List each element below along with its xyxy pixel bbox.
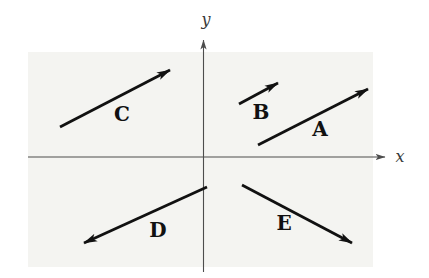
vector-E-label: E (276, 211, 291, 235)
vector-D-label: D (149, 218, 166, 242)
plot-region (28, 52, 373, 267)
vector-C-label: C (114, 102, 130, 126)
vector-A-label: A (311, 117, 328, 141)
vector-B-label: B (253, 100, 270, 124)
y-axis-label: y (200, 10, 211, 29)
vector-diagram-figure: x y ABCDE (0, 0, 429, 278)
x-axis-label: x (395, 147, 404, 166)
vector-diagram-canvas: x y ABCDE (0, 0, 429, 278)
